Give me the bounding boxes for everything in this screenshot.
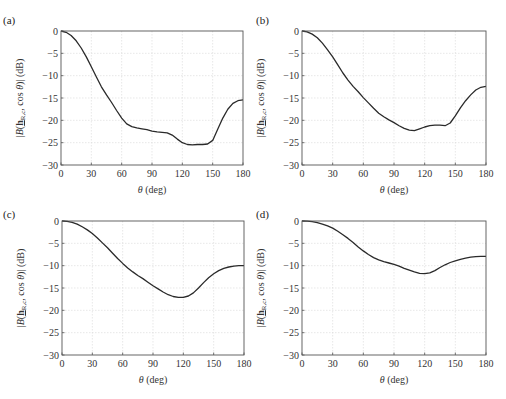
x-tick-label: 60 — [358, 168, 368, 179]
chart-panel-d: (d) 03060901201501800−5−10−15−20−25−30θ … — [253, 200, 506, 399]
y-tick-label: −10 — [43, 260, 59, 271]
y-tick-label: −30 — [43, 350, 59, 361]
x-tick-label: 30 — [87, 358, 97, 369]
y-tick-label: 0 — [53, 26, 58, 37]
x-tick-label: 180 — [236, 168, 251, 179]
x-tick-label: 120 — [175, 168, 190, 179]
grid — [302, 31, 486, 165]
grid — [302, 221, 486, 355]
y-tick-label: −15 — [283, 93, 299, 104]
x-tick-label: 120 — [417, 168, 432, 179]
x-tick-label: 180 — [479, 358, 494, 369]
y-tick-label: −5 — [288, 238, 299, 249]
grid — [62, 221, 244, 355]
x-tick-label: 90 — [389, 168, 399, 179]
x-tick-label: 30 — [86, 168, 96, 179]
y-tick-label: −25 — [283, 137, 299, 148]
y-tick-label: −20 — [283, 115, 299, 126]
x-tick-label: 150 — [205, 168, 220, 179]
y-tick-label: −30 — [42, 160, 58, 171]
x-tick-label: 150 — [206, 358, 221, 369]
x-axis-label: θ (deg) — [138, 184, 167, 196]
x-tick-label: 60 — [117, 168, 127, 179]
chart-panel-c: (c) 03060901201501800−5−10−15−20−25−30θ … — [0, 200, 253, 399]
y-tick-label: −5 — [47, 48, 58, 59]
x-tick-label: 90 — [389, 358, 399, 369]
x-tick-label: 30 — [328, 168, 338, 179]
y-tick-label: 0 — [54, 216, 59, 227]
x-axis-label: θ (deg) — [380, 374, 409, 386]
y-axis-label: |B(hR,c, cos θ)| (dB) — [255, 249, 268, 328]
y-tick-label: −25 — [42, 137, 58, 148]
y-tick-label: −20 — [283, 305, 299, 316]
y-tick-label: −5 — [48, 238, 59, 249]
x-tick-label: 180 — [479, 168, 494, 179]
x-tick-label: 0 — [300, 358, 305, 369]
y-tick-label: −15 — [42, 93, 58, 104]
x-tick-label: 0 — [60, 358, 65, 369]
y-axis-label: |B(hR,c, cos θ)| (dB) — [14, 59, 27, 138]
beampattern-curve — [62, 221, 244, 297]
y-tick-label: −10 — [283, 260, 299, 271]
x-tick-label: 150 — [448, 358, 463, 369]
grid — [61, 31, 243, 165]
x-axis-label: θ (deg) — [139, 374, 168, 386]
y-tick-label: −15 — [43, 283, 59, 294]
panel-label-b: (b) — [256, 14, 269, 26]
y-tick-label: −10 — [283, 70, 299, 81]
x-axis-label: θ (deg) — [380, 184, 409, 196]
ticks: 03060901201501800−5−10−15−20−25−30 — [43, 216, 251, 370]
plot-b: 03060901201501800−5−10−15−20−25−30θ (deg… — [253, 0, 506, 200]
plot-a: 03060901201501800−5−10−15−20−25−30θ (deg… — [0, 0, 253, 200]
y-axis-label: |B(hR,c, cos θ)| (dB) — [15, 249, 28, 328]
y-tick-label: 0 — [294, 216, 299, 227]
panel-label-a: (a) — [3, 14, 15, 26]
panel-label-d: (d) — [256, 208, 269, 220]
x-tick-label: 120 — [417, 358, 432, 369]
x-tick-label: 120 — [176, 358, 191, 369]
y-tick-label: −15 — [283, 283, 299, 294]
x-tick-label: 30 — [328, 358, 338, 369]
x-tick-label: 60 — [358, 358, 368, 369]
y-tick-label: −5 — [288, 48, 299, 59]
x-tick-label: 90 — [147, 168, 157, 179]
y-tick-label: −25 — [43, 327, 59, 338]
plot-d: 03060901201501800−5−10−15−20−25−30θ (deg… — [253, 200, 506, 399]
y-tick-label: −25 — [283, 327, 299, 338]
x-tick-label: 180 — [237, 358, 252, 369]
ticks: 03060901201501800−5−10−15−20−25−30 — [42, 26, 250, 180]
x-tick-label: 90 — [148, 358, 158, 369]
y-tick-label: −30 — [283, 160, 299, 171]
x-tick-label: 0 — [59, 168, 64, 179]
y-tick-label: −20 — [43, 305, 59, 316]
chart-panel-a: (a) 03060901201501800−5−10−15−20−25−30θ … — [0, 0, 253, 200]
y-axis-label: |B(hR,c, cos θ)| (dB) — [255, 59, 268, 138]
x-tick-label: 60 — [118, 358, 128, 369]
panel-label-c: (c) — [3, 208, 15, 220]
chart-panel-b: (b) 03060901201501800−5−10−15−20−25−30θ … — [253, 0, 506, 200]
y-tick-label: −20 — [42, 115, 58, 126]
x-tick-label: 150 — [448, 168, 463, 179]
y-tick-label: 0 — [294, 26, 299, 37]
plot-c: 03060901201501800−5−10−15−20−25−30θ (deg… — [0, 200, 253, 399]
x-tick-label: 0 — [300, 168, 305, 179]
y-tick-label: −30 — [283, 350, 299, 361]
ticks: 03060901201501800−5−10−15−20−25−30 — [283, 26, 493, 180]
y-tick-label: −10 — [42, 70, 58, 81]
ticks: 03060901201501800−5−10−15−20−25−30 — [283, 216, 493, 370]
